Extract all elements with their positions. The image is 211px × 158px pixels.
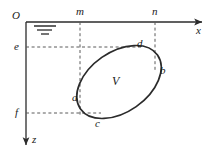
z-tick-label-f: f (15, 107, 18, 118)
origin-label: O (12, 10, 20, 21)
water-table-icon (34, 26, 56, 34)
x-axis-label: x (196, 25, 201, 36)
x-tick-label-n: n (152, 6, 158, 17)
boundary-point-label-a: a (72, 92, 78, 103)
region-label-v: V (112, 75, 119, 87)
boundary-point-label-d: d (137, 38, 143, 49)
z-axis-label: z (32, 134, 36, 145)
z-tick-label-e: e (14, 41, 19, 52)
diagram-canvas: O x z m n e f a b c d V (0, 0, 211, 158)
boundary-point-label-c: c (95, 118, 100, 129)
boundary-point-label-b: b (160, 65, 166, 76)
x-tick-label-m: m (76, 6, 84, 17)
